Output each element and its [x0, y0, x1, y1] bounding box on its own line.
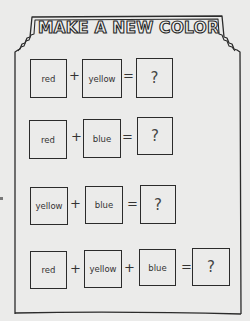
equals-operator: = — [122, 130, 133, 143]
answer-box[interactable]: ? — [136, 58, 173, 98]
worksheet-title: MAKE A NEW COLOR — [38, 19, 214, 37]
term-box: yellow — [84, 250, 122, 288]
term-box: red — [30, 59, 67, 98]
plus-operator: + — [70, 197, 81, 210]
equals-operator: = — [127, 197, 138, 210]
term-box: blue — [139, 249, 176, 286]
term-box: blue — [85, 186, 123, 224]
answer-box[interactable]: ? — [140, 185, 176, 224]
term-box: yellow — [30, 187, 68, 225]
equals-operator: = — [181, 260, 192, 273]
frame-bottom-border — [15, 312, 241, 314]
answer-box[interactable]: ? — [192, 248, 230, 286]
plus-operator: + — [71, 130, 82, 143]
term-box: red — [30, 251, 67, 289]
term-box: yellow — [82, 59, 122, 98]
answer-box[interactable]: ? — [137, 117, 173, 155]
plus-operator: + — [69, 69, 80, 82]
plus-operator: + — [124, 261, 135, 274]
paper-edge-mark — [0, 197, 3, 200]
term-box: red — [29, 120, 67, 159]
term-box: blue — [83, 119, 121, 158]
plus-operator: + — [70, 262, 81, 275]
equals-operator: = — [123, 69, 134, 82]
